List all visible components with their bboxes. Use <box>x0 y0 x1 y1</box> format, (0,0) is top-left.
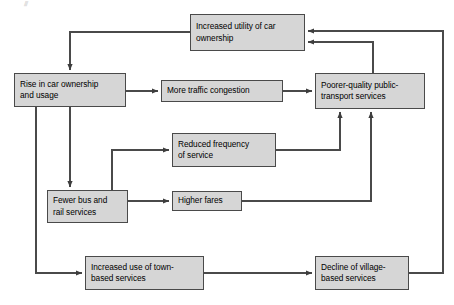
node-label: Increased use of town- based services <box>91 262 199 285</box>
node-more-traffic-congestion[interactable]: More traffic congestion <box>161 80 283 102</box>
node-higher-fares[interactable]: Higher fares <box>172 191 242 211</box>
edge-reduced-frequency-to-poorer-quality <box>276 112 340 150</box>
node-poorer-quality-public-transport-services[interactable]: Poorer-quality public- transport service… <box>315 73 425 109</box>
node-label: Increased utility of car ownership <box>196 21 300 44</box>
node-increased-utility-of-car-ownership[interactable]: Increased utility of car ownership <box>190 14 305 51</box>
node-label: Decline of village- based services <box>321 262 404 285</box>
node-label-line1: Reduced frequency <box>178 139 271 151</box>
node-label-line1: Fewer bus and <box>53 195 123 207</box>
node-label-line1: Increased utility of car <box>196 21 300 33</box>
flowchart-diagram: ⫻ <box>0 0 454 305</box>
node-label-line1: Poorer-quality public- <box>321 80 420 92</box>
node-rise-in-car-ownership-and-usage[interactable]: Rise in car ownership and usage <box>14 73 126 107</box>
node-increased-use-of-town-based-services[interactable]: Increased use of town- based services <box>85 256 204 290</box>
node-label-line1: Rise in car ownership <box>20 79 121 91</box>
node-label-line2: rail services <box>53 207 123 219</box>
node-label-line1: Decline of village- <box>321 262 404 274</box>
node-label-line2: transport services <box>321 91 420 103</box>
node-label: Reduced frequency of service <box>178 139 271 162</box>
node-label-line2: based services <box>321 273 404 285</box>
node-reduced-frequency-of-service[interactable]: Reduced frequency of service <box>172 133 276 167</box>
node-label-line1: Higher fares <box>178 195 237 207</box>
node-label-line1: Increased use of town- <box>91 262 199 274</box>
node-label-line2: ownership <box>196 33 300 45</box>
node-label-line2: based services <box>91 273 199 285</box>
node-label: Higher fares <box>178 195 237 207</box>
edge-fewer-bus-to-reduced-frequency <box>112 150 169 190</box>
node-label-line2: of service <box>178 150 271 162</box>
node-label: Fewer bus and rail services <box>53 195 123 218</box>
node-label-line2: and usage <box>20 90 121 102</box>
node-label: More traffic congestion <box>167 85 278 97</box>
node-label-line1: More traffic congestion <box>167 85 278 97</box>
edge-poorer-quality-to-car-utility <box>308 42 373 73</box>
edge-car-utility-to-car-ownership <box>70 32 190 70</box>
node-decline-of-village-based-services[interactable]: Decline of village- based services <box>315 256 409 290</box>
node-label: Poorer-quality public- transport service… <box>321 80 420 103</box>
scan-artifact-mark: ⫻ <box>24 0 31 7</box>
edge-village-services-to-car-utility <box>308 31 443 273</box>
node-fewer-bus-and-rail-services[interactable]: Fewer bus and rail services <box>47 190 128 223</box>
node-label: Rise in car ownership and usage <box>20 79 121 102</box>
